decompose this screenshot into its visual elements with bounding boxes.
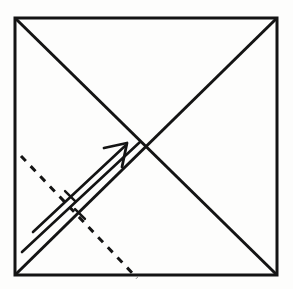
fold-diagram-canvas (0, 0, 293, 289)
fold-diagram-svg (0, 0, 293, 289)
